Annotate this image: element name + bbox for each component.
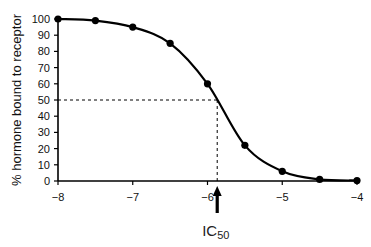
y-tick-label: 10 bbox=[38, 159, 50, 171]
data-point bbox=[241, 142, 248, 149]
ic50-annotation: IC50 bbox=[202, 222, 229, 241]
data-point bbox=[316, 176, 323, 183]
y-tick-label: 70 bbox=[38, 62, 50, 74]
y-tick-label: 0 bbox=[44, 175, 50, 187]
data-point bbox=[353, 177, 360, 184]
data-point bbox=[279, 168, 286, 175]
data-point bbox=[204, 80, 211, 87]
y-tick-label: 100 bbox=[32, 13, 50, 25]
x-tick-label: −6 bbox=[201, 191, 214, 203]
ic50-arrow-icon bbox=[213, 186, 222, 196]
y-axis-title: % hormone bound to receptor bbox=[9, 13, 24, 186]
data-point bbox=[92, 17, 99, 24]
data-point bbox=[167, 40, 174, 47]
x-tick-label: −8 bbox=[52, 191, 65, 203]
ic50-label: IC50 bbox=[202, 222, 229, 241]
plot-area: 0102030405060708090100−8−7−6−5−4 bbox=[32, 13, 364, 213]
y-tick-label: 30 bbox=[38, 126, 50, 138]
data-point bbox=[129, 24, 136, 31]
data-point bbox=[54, 15, 61, 22]
x-tick-label: −5 bbox=[276, 191, 289, 203]
y-tick-label: 90 bbox=[38, 29, 50, 41]
x-tick-label: −4 bbox=[351, 191, 364, 203]
x-tick-label: −7 bbox=[126, 191, 139, 203]
y-tick-label: 60 bbox=[38, 78, 50, 90]
y-tick-label: 50 bbox=[38, 94, 50, 106]
y-tick-label: 80 bbox=[38, 45, 50, 57]
y-tick-label: 40 bbox=[38, 110, 50, 122]
y-tick-label: 20 bbox=[38, 143, 50, 155]
dose-response-chart: 0102030405060708090100−8−7−6−5−4 % hormo… bbox=[0, 0, 371, 247]
